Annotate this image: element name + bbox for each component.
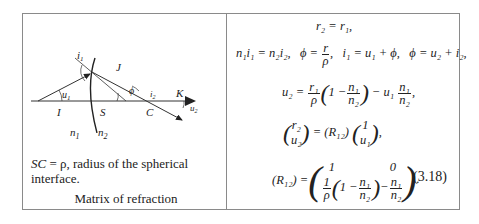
equation-3: u₂ = r₁ρ(1 −n₁n₂) − u₁ n₁n₂, — [282, 80, 415, 107]
equation-4: (r₂u₂) = (R₁₂) (1u₁), — [283, 118, 382, 148]
equation-number: (3.18) — [413, 169, 447, 185]
svg-text:K: K — [175, 87, 184, 99]
equation-5: (R₁₂) =( 10 1ρ(1 −n₁n₂)−n₁n₂ ). — [272, 157, 420, 204]
caption-text: = ρ, radius of the spherical interface. — [31, 156, 188, 186]
svg-text:C: C — [146, 106, 154, 118]
svg-text:I: I — [56, 106, 62, 118]
svg-text:i1: i1 — [77, 49, 84, 63]
svg-text:i2: i2 — [150, 89, 156, 100]
caption-title: Matrix of refraction — [31, 191, 221, 206]
column-divider — [226, 13, 227, 210]
interface-arc — [90, 58, 97, 133]
svg-text:S: S — [100, 106, 106, 118]
equation-2: n₁i₁ = n₂i₂, ϕ = rρ, i₁ = u₁ + ϕ, ϕ = u₂… — [236, 42, 467, 67]
caption-sc: SC — [31, 156, 46, 171]
refraction-diagram: i1 J u1 ϕ i2 K u2 I S C — [22, 13, 226, 133]
svg-text:ϕ: ϕ — [129, 85, 134, 96]
n2-label: n2 — [98, 126, 108, 141]
figure-caption: SC = ρ, radius of the spherical interfac… — [31, 156, 221, 206]
svg-text:u1: u1 — [62, 89, 71, 102]
svg-text:u2: u2 — [190, 103, 198, 114]
n1-label: n1 — [70, 126, 80, 141]
svg-text:J: J — [116, 61, 122, 73]
equation-1: r₂ = r₁, — [316, 19, 352, 34]
